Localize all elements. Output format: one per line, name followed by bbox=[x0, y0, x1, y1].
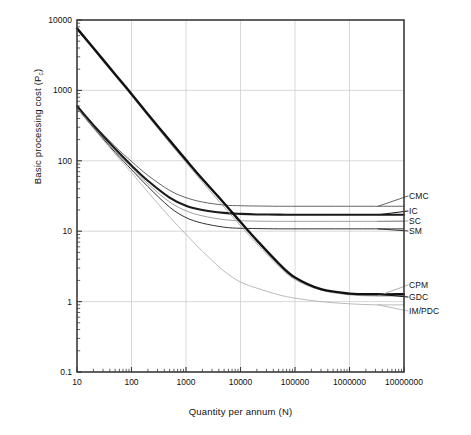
y-tick-label: 10000 bbox=[20, 15, 72, 25]
x-axis-title: Quantity per annum (N) bbox=[77, 406, 404, 417]
series-label-cpm: CPM bbox=[409, 280, 428, 290]
y-tick-label: 100 bbox=[20, 156, 72, 166]
x-tick-label: 100000 bbox=[281, 377, 309, 387]
y-tick-label: 1000 bbox=[20, 85, 72, 95]
series-label-ic: IC bbox=[409, 206, 418, 216]
series-label-sc: SC bbox=[409, 216, 421, 226]
y-tick-label: 10 bbox=[20, 226, 72, 236]
chart-figure: Basic processing cost (Pc) Quantity per … bbox=[0, 0, 471, 435]
x-tick-label: 1000000 bbox=[333, 377, 366, 387]
y-axis-title: Basic processing cost (Pc) bbox=[32, 36, 45, 216]
grid-layer bbox=[77, 20, 404, 372]
series-label-gdc: GDC bbox=[409, 292, 428, 302]
y-tick-label: 0.1 bbox=[20, 367, 72, 377]
series-label-sm: SM bbox=[409, 226, 422, 236]
series-label-cmc: CMC bbox=[409, 191, 429, 201]
x-tick-label: 10 bbox=[72, 377, 81, 387]
y-tick-label: 1 bbox=[20, 297, 72, 307]
series-label-im-pdc: IM/PDC bbox=[409, 306, 439, 316]
x-tick-label: 10000 bbox=[229, 377, 253, 387]
x-tick-label: 100 bbox=[124, 377, 138, 387]
x-tick-label: 1000 bbox=[177, 377, 196, 387]
x-tick-label: 10000000 bbox=[385, 377, 423, 387]
